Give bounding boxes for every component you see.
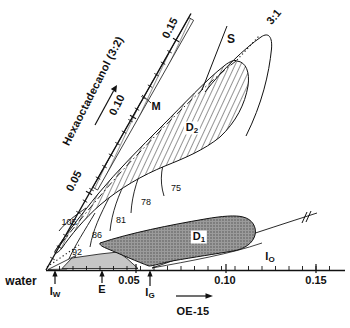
io-sub: O (268, 255, 274, 264)
region-label-e: E (98, 284, 105, 295)
contour-label-92: 92 (72, 248, 82, 257)
region-label-iw: IW (50, 286, 61, 299)
iw-arrow-icon (52, 270, 57, 284)
d1-sub: 1 (201, 235, 205, 244)
tie-dotted-line (237, 36, 259, 60)
iw-sub: W (53, 290, 61, 299)
contour-label-86: 86 (92, 231, 102, 240)
phase-diagram-canvas (0, 0, 350, 328)
contour-label-75: 75 (171, 184, 181, 193)
contour-label-105: 105 (61, 218, 76, 227)
region-label-m: M (151, 101, 160, 112)
d1-main: D (193, 230, 201, 242)
d2-sub: 2 (194, 126, 198, 135)
contour-label-78: 78 (141, 198, 151, 207)
origin-label: water (5, 275, 36, 287)
region-label-io: IO (265, 251, 274, 264)
x-axis-minor-ticks (60, 266, 330, 271)
oe15-arrow-icon (176, 293, 213, 299)
region-label-d1: D1 (191, 231, 207, 244)
x-axis-title: OE-15 (177, 306, 210, 317)
d2-main: D (186, 121, 194, 133)
phase-diagram-figure: water 0.05 0.10 0.15 OE-15 0.05 0.10 0.1… (0, 0, 350, 328)
region-label-d2: D2 (184, 122, 200, 135)
contour-label-81: 81 (116, 216, 126, 225)
ig-sub: G (148, 291, 154, 300)
ig-arrow-icon (147, 270, 152, 286)
region-label-ig: IG (145, 287, 154, 300)
x-tick-label-015: 0.15 (305, 275, 326, 286)
x-tick-label-005: 0.05 (118, 275, 139, 286)
region-label-s: S (227, 33, 235, 45)
e-arrow-icon (99, 270, 104, 283)
x-tick-label-010: 0.10 (214, 275, 235, 286)
